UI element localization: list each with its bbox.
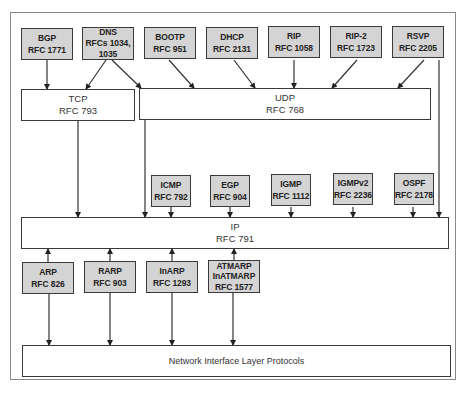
protocol-name: RARP (98, 265, 122, 277)
protocol-box-dns: DNS RFCs 1034, 1035 (82, 27, 134, 60)
protocol-name: InARP (159, 265, 184, 277)
protocol-name: DNS (99, 27, 117, 38)
layer-name: TCP (69, 93, 88, 105)
protocol-rfc: RFC 904 (213, 191, 246, 203)
protocol-box-bootp: BOOTP RFC 951 (144, 27, 196, 59)
arrow-dhcp-udp (234, 60, 255, 88)
layer-name: UDP (275, 92, 295, 104)
protocol-rfc: RFC 1577 (215, 282, 253, 293)
protocol-name: RIP-2 (345, 30, 366, 42)
protocol-rfc: RFC 2131 (213, 43, 251, 55)
protocol-box-rip: RIP RFC 1058 (268, 26, 320, 58)
layer-box-ip: IP RFC 791 (21, 217, 449, 249)
arrow-bootp-udp (169, 60, 194, 88)
protocol-name-alt: InATMARP (213, 271, 255, 282)
layer-rfc: RFC 793 (59, 105, 97, 117)
arrow-rip2-udp (332, 60, 357, 88)
protocol-name: OSPF (403, 177, 426, 189)
protocol-name: RSVP (407, 30, 430, 42)
arrow-rsvp-udp (398, 60, 424, 88)
protocol-rfc: RFC 1058 (275, 42, 313, 54)
protocol-name: ATMARP (216, 261, 251, 272)
protocol-box-bgp: BGP RFC 1771 (21, 28, 73, 60)
protocol-diagram: BGP RFC 1771 DNS RFCs 1034, 1035 BOOTP R… (0, 0, 468, 405)
protocol-rfc: RFC 903 (93, 277, 126, 289)
layer-rfc: RFC 768 (266, 104, 304, 116)
protocol-name: IGMP (280, 178, 301, 190)
protocol-box-dhcp: DHCP RFC 2131 (206, 27, 258, 59)
protocol-name: BGP (38, 32, 56, 44)
protocol-name: DHCP (220, 31, 244, 43)
protocol-rfc: RFC 1112 (272, 190, 309, 202)
protocol-box-icmp: ICMP RFC 792 (151, 175, 191, 207)
protocol-rfc: RFC 2236 (334, 189, 372, 201)
protocol-rfc: RFC 951 (153, 43, 186, 55)
layer-name: Network Interface Layer Protocols (169, 355, 305, 367)
protocol-rfc: RFCs 1034, (86, 38, 131, 49)
protocol-name: EGP (221, 179, 239, 191)
protocol-name: ARP (39, 266, 57, 278)
protocol-rfc: RFC 792 (154, 191, 187, 203)
protocol-box-igmpv2: IGMPv2 RFC 2236 (333, 173, 373, 205)
protocol-box-atmarp: ATMARP InATMARP RFC 1577 (208, 260, 260, 293)
protocol-rfc: RFC 1723 (337, 42, 375, 54)
layer-box-network-interface: Network Interface Layer Protocols (22, 345, 451, 377)
protocol-rfc-continued: 1035 (99, 49, 118, 60)
protocol-rfc: RFC 1293 (153, 277, 191, 289)
layer-rfc: RFC 791 (216, 233, 254, 245)
protocol-box-arp: ARP RFC 826 (22, 262, 74, 294)
protocol-rfc: RFC 1771 (28, 44, 66, 56)
protocol-box-egp: EGP RFC 904 (210, 175, 250, 207)
protocol-box-rsvp: RSVP RFC 2205 (392, 26, 444, 58)
protocol-rfc: RFC 2205 (399, 42, 437, 54)
arrow-dns-udp (112, 60, 141, 88)
layer-name: IP (231, 221, 240, 233)
protocol-name: BOOTP (155, 31, 185, 43)
arrow-dns-tcp (86, 60, 106, 89)
protocol-box-rip2: RIP-2 RFC 1723 (330, 26, 382, 58)
layer-box-udp: UDP RFC 768 (139, 88, 431, 120)
protocol-name: RIP (287, 30, 301, 42)
protocol-box-inarp: InARP RFC 1293 (146, 261, 198, 293)
protocol-rfc: RFC 826 (31, 278, 64, 290)
protocol-name: IGMPv2 (338, 177, 369, 189)
layer-box-tcp: TCP RFC 793 (21, 89, 135, 121)
protocol-box-ospf: OSPF RFC 2178 (394, 173, 434, 205)
protocol-name: ICMP (161, 179, 182, 191)
protocol-box-rarp: RARP RFC 903 (84, 261, 136, 293)
protocol-box-igmp: IGMP RFC 1112 (271, 174, 311, 206)
protocol-rfc: RFC 2178 (395, 189, 433, 201)
